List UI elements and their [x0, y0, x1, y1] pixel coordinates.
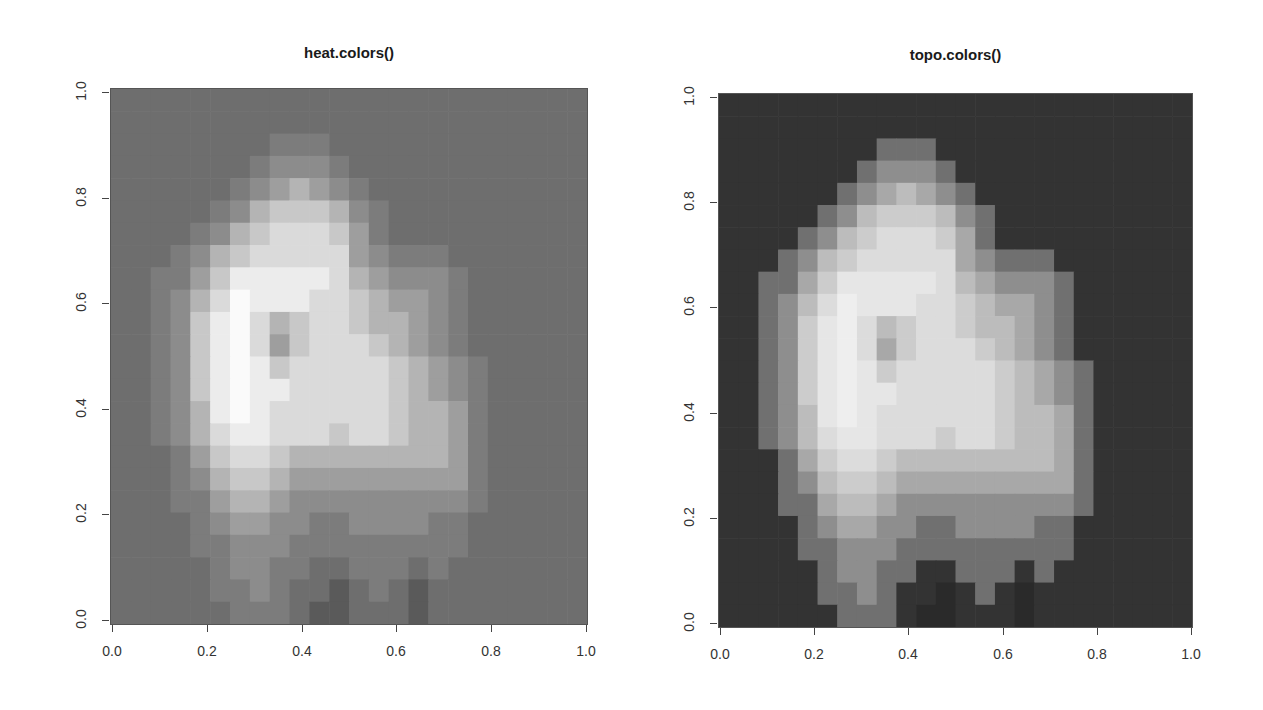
- heatmap-cell: [1054, 205, 1074, 228]
- heatmap-cell: [1133, 516, 1153, 539]
- heatmap-cell: [1074, 449, 1094, 472]
- heatmap-cell: [798, 383, 818, 406]
- heatmap-cell: [896, 560, 916, 583]
- heatmap-cell: [1153, 472, 1173, 495]
- heatmap-cell: [818, 227, 838, 250]
- heatmap-cell: [837, 116, 857, 139]
- heatmap-cell: [1093, 272, 1113, 295]
- heatmap-cell: [936, 583, 956, 606]
- heatmap-cell: [916, 294, 936, 317]
- heatmap-cell: [837, 161, 857, 184]
- y-axis-tick: [710, 413, 717, 414]
- heatmap-cell: [798, 361, 818, 384]
- heatmap-cell: [1133, 205, 1153, 228]
- heatmap-cell: [1034, 138, 1054, 161]
- heatmap-cell: [916, 116, 936, 139]
- heatmap-cell: [818, 538, 838, 561]
- heatmap-cell: [758, 138, 778, 161]
- heatmap-cell: [778, 605, 798, 627]
- heatmap-cell: [1153, 272, 1173, 295]
- heatmap-cell: [739, 427, 759, 450]
- heatmap-cell: [818, 116, 838, 139]
- heatmap-cell: [837, 272, 857, 295]
- heatmap-cell: [818, 516, 838, 539]
- heatmap-cell: [1015, 249, 1035, 272]
- heatmap-cell: [1093, 383, 1113, 406]
- heatmap-cell: [995, 205, 1015, 228]
- heatmap-cell: [1015, 338, 1035, 361]
- heatmap-cell: [758, 94, 778, 117]
- heatmap-cell: [1034, 472, 1054, 495]
- heatmap-cell: [857, 494, 877, 517]
- heatmap-cell: [1074, 227, 1094, 250]
- heatmap-cell: [798, 427, 818, 450]
- heatmap-cell: [896, 116, 916, 139]
- x-tick-label: 1.0: [1171, 646, 1211, 662]
- heatmap-cell: [1054, 227, 1074, 250]
- heatmap-cell: [1172, 294, 1192, 317]
- heatmap-cell: [1093, 227, 1113, 250]
- heatmap-cell: [758, 272, 778, 295]
- heatmap-cell: [995, 605, 1015, 627]
- heatmap-cell: [1034, 294, 1054, 317]
- heatmap-cell: [719, 427, 739, 450]
- heatmap-cell: [956, 472, 976, 495]
- heatmap-cell: [975, 183, 995, 206]
- heatmap-cell: [719, 94, 739, 117]
- heatmap-cell: [1133, 138, 1153, 161]
- heatmap-cell: [719, 183, 739, 206]
- heatmap-cell: [758, 516, 778, 539]
- heatmap-cell: [1034, 405, 1054, 428]
- heatmap-cell: [1133, 560, 1153, 583]
- heatmap-cell: [778, 538, 798, 561]
- heatmap-cell: [1093, 116, 1113, 139]
- heatmap-cell: [837, 316, 857, 339]
- heatmap-cell: [778, 405, 798, 428]
- heatmap-cell: [719, 316, 739, 339]
- heatmap-cell: [739, 538, 759, 561]
- heatmap-cell: [975, 405, 995, 428]
- y-tick-label: 0.0: [681, 607, 697, 637]
- heatmap-cell: [877, 205, 897, 228]
- heatmap-cell: [1172, 316, 1192, 339]
- heatmap-cell: [1113, 605, 1133, 627]
- heatmap-cell: [798, 249, 818, 272]
- heatmap-cell: [1034, 449, 1054, 472]
- heatmap-cell: [778, 227, 798, 250]
- heatmap-cell: [1172, 183, 1192, 206]
- heatmap-cell: [739, 383, 759, 406]
- x-tick-label: 0.2: [794, 646, 834, 662]
- heatmap-cell: [896, 161, 916, 184]
- heatmap-cell: [877, 472, 897, 495]
- heatmap-cell: [857, 249, 877, 272]
- heatmap-cell: [798, 205, 818, 228]
- y-tick-label: 1.0: [681, 81, 697, 111]
- heatmap-cell: [877, 494, 897, 517]
- heatmap-cell: [936, 138, 956, 161]
- heatmap-cell: [1113, 249, 1133, 272]
- heatmap-cell: [1034, 316, 1054, 339]
- heatmap-cell: [1054, 116, 1074, 139]
- heatmap-cell: [719, 494, 739, 517]
- heatmap-cell: [1153, 183, 1173, 206]
- heatmap-cell: [798, 538, 818, 561]
- heatmap-cell: [877, 294, 897, 317]
- heatmap-cell: [758, 249, 778, 272]
- heatmap-cell: [1113, 272, 1133, 295]
- heatmap-cell: [1093, 427, 1113, 450]
- heatmap-cell: [778, 383, 798, 406]
- heatmap-cell: [1015, 472, 1035, 495]
- heatmap-cell: [956, 538, 976, 561]
- heatmap-cell: [778, 249, 798, 272]
- heatmap-cell: [719, 516, 739, 539]
- heatmap-cell: [896, 249, 916, 272]
- heatmap-cell: [1015, 449, 1035, 472]
- heatmap-cell: [719, 227, 739, 250]
- heatmap-cell: [1133, 227, 1153, 250]
- heatmap-cell: [758, 405, 778, 428]
- heatmap-cell: [1093, 583, 1113, 606]
- heatmap-cell: [995, 427, 1015, 450]
- heatmap-cell: [837, 583, 857, 606]
- heatmap-cell: [739, 405, 759, 428]
- heatmap-cell: [1093, 183, 1113, 206]
